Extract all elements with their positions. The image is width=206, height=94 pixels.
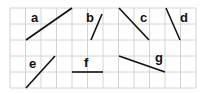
segment-label: d <box>180 10 188 25</box>
segment-label: g <box>155 50 163 65</box>
line-segments-diagram: abcdefg <box>0 0 206 94</box>
segment-label: a <box>31 10 39 25</box>
segment-label: b <box>86 10 94 25</box>
segment-label: c <box>140 10 147 25</box>
segment-b: b <box>86 10 102 40</box>
segment-label: f <box>84 55 89 70</box>
segment-g: g <box>119 50 165 72</box>
segments: abcdefg <box>26 8 188 88</box>
segment-label: e <box>29 56 36 71</box>
segment-f: f <box>72 55 103 72</box>
